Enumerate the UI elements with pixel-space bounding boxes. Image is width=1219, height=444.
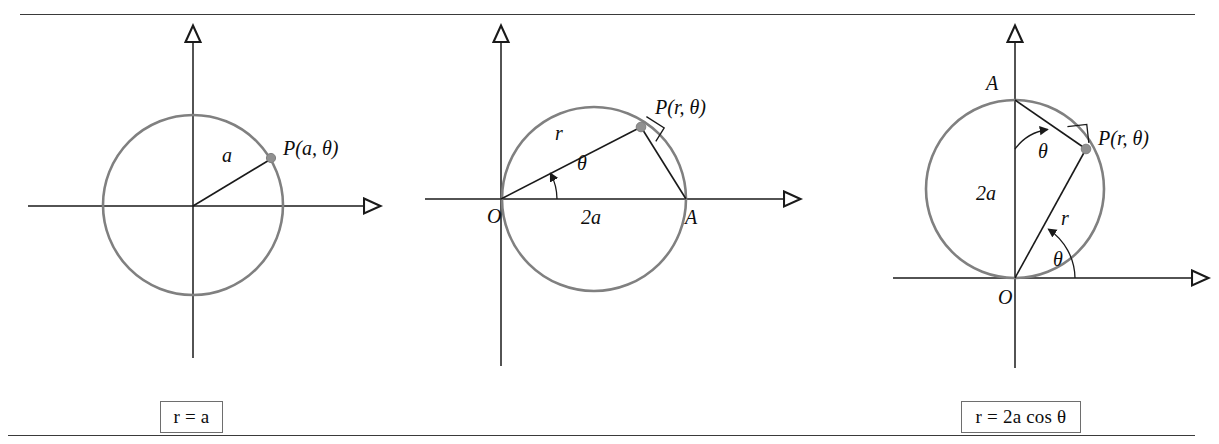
radius-label-r: r bbox=[555, 122, 563, 144]
diameter-label-2a: 2a bbox=[581, 206, 601, 228]
point-label-A: A bbox=[984, 72, 999, 94]
point-marker-P bbox=[1081, 144, 1091, 154]
panel-1-svg: a P(a, θ) bbox=[0, 18, 420, 418]
angle-arc-theta bbox=[551, 173, 558, 199]
figure-page: a P(a, θ) r = a bbox=[0, 0, 1219, 444]
caption-text: r = a bbox=[174, 406, 210, 428]
origin-label-O: O bbox=[998, 286, 1012, 308]
angle-label-theta-top: θ bbox=[1038, 140, 1048, 162]
diagram-panel-circle-r-equals-a: a P(a, θ) r = a bbox=[0, 18, 420, 418]
point-marker-P bbox=[266, 153, 275, 162]
diagram-panel-circle-r-equals-2a-sin-theta: A θ 2a r θ O P(r, θ) r = 2a sin θ bbox=[800, 18, 1219, 418]
point-label-A: A bbox=[683, 206, 698, 228]
point-label-P: P(a, θ) bbox=[282, 137, 339, 160]
diameter-label-2a: 2a bbox=[976, 182, 996, 204]
top-divider-rule bbox=[20, 14, 1195, 15]
chord-OP-radius-r bbox=[501, 127, 641, 199]
panel-3-svg: A θ 2a r θ O P(r, θ) bbox=[800, 18, 1219, 418]
radius-segment-a bbox=[193, 159, 271, 206]
origin-label-O: O bbox=[487, 205, 501, 227]
bottom-divider-rule bbox=[8, 435, 1195, 436]
radius-label-a: a bbox=[222, 144, 232, 166]
caption-box-r-equals-a: r = a bbox=[160, 401, 223, 433]
panel-2-svg: r θ O 2a A P(r, θ) bbox=[410, 18, 810, 418]
chord-OP-radius-r bbox=[1015, 149, 1086, 278]
point-label-P: P(r, θ) bbox=[654, 96, 706, 119]
angle-label-theta-bottom: θ bbox=[1053, 248, 1063, 270]
point-marker-P bbox=[636, 122, 646, 132]
radius-label-r: r bbox=[1061, 207, 1069, 229]
diagram-panel-circle-r-equals-2a-cos-theta: r θ O 2a A P(r, θ) r = 2a cos θ bbox=[410, 18, 810, 418]
angle-label-theta: θ bbox=[577, 152, 587, 174]
point-label-P: P(r, θ) bbox=[1097, 127, 1149, 150]
